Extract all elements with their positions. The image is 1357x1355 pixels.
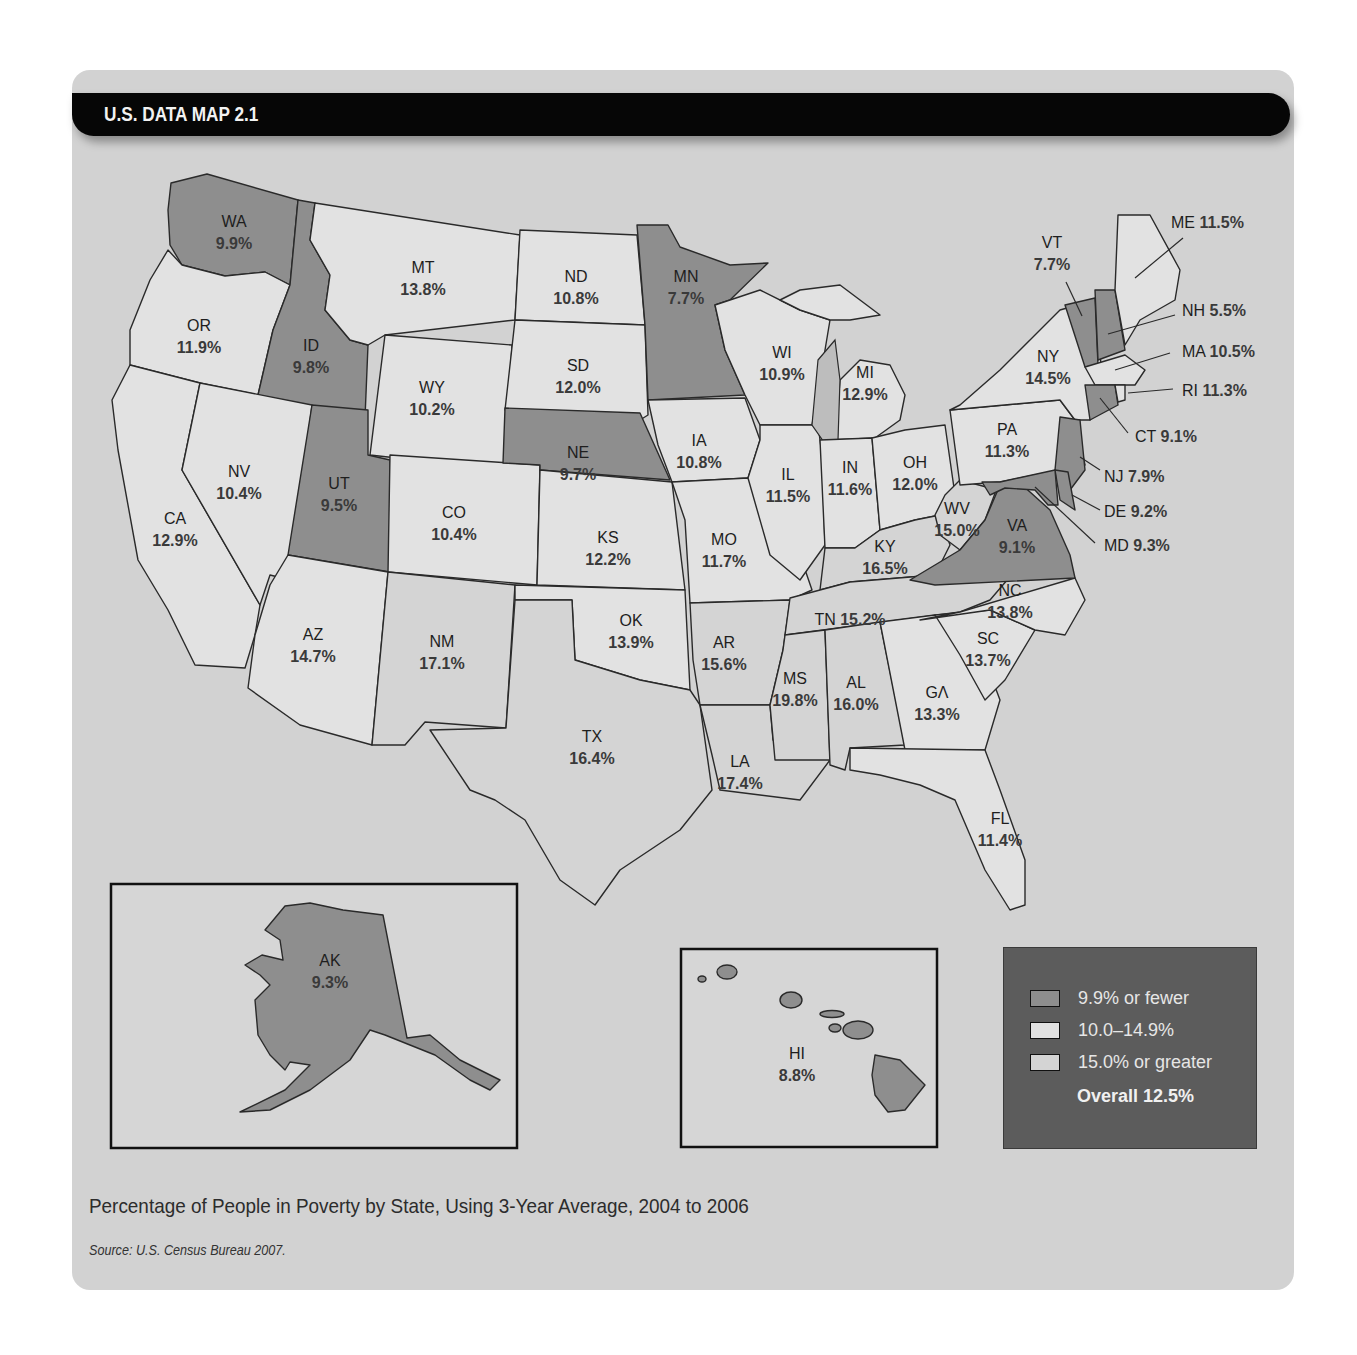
map-source: Source: U.S. Census Bureau 2007.: [89, 1242, 286, 1258]
callout-DE: DE 9.2%: [1104, 503, 1167, 521]
callout-MA: MA 10.5%: [1182, 343, 1255, 361]
label-VA: VA9.1%: [999, 515, 1035, 559]
label-OR: OR11.9%: [177, 315, 221, 359]
label-MI: MI12.9%: [842, 362, 887, 406]
label-WA: WA9.9%: [216, 211, 252, 255]
label-TX: TX16.4%: [569, 726, 614, 770]
legend-overall: Overall 12.5%: [1077, 1086, 1194, 1107]
label-MN: MN7.7%: [668, 266, 704, 310]
label-TN: TN 15.2%: [814, 609, 885, 631]
label-MT: MT13.8%: [400, 257, 445, 301]
label-FL: FL11.4%: [978, 808, 1022, 852]
legend-swatch-low: [1030, 990, 1060, 1007]
callout-MD: MD 9.3%: [1104, 537, 1170, 555]
legend-item-mid: 10.0–14.9%: [1030, 1018, 1174, 1042]
callout-NJ: NJ 7.9%: [1104, 468, 1164, 486]
legend: 9.9% or fewer 10.0–14.9% 15.0% or greate…: [1003, 947, 1257, 1149]
callout-RI: RI 11.3%: [1182, 382, 1247, 400]
label-OK: OK13.9%: [608, 610, 653, 654]
label-NM: NM17.1%: [419, 631, 464, 675]
map-caption: Percentage of People in Poverty by State…: [89, 1194, 749, 1218]
label-AZ: AZ14.7%: [290, 624, 335, 668]
label-VT: VT7.7%: [1034, 232, 1070, 276]
label-OH: OH12.0%: [892, 452, 937, 496]
label-KS: KS12.2%: [585, 527, 630, 571]
label-MS: MS19.8%: [772, 668, 817, 712]
callout-CT: CT 9.1%: [1135, 428, 1197, 446]
label-SC: SC13.7%: [965, 628, 1010, 672]
label-NC: NC13.8%: [987, 580, 1032, 624]
label-AR: AR15.6%: [701, 632, 746, 676]
label-UT: UT9.5%: [321, 473, 357, 517]
label-AK: AK9.3%: [312, 950, 348, 994]
label-IN: IN11.6%: [828, 457, 872, 501]
callout-ME: ME 11.5%: [1171, 214, 1244, 232]
legend-swatch-mid: [1030, 1022, 1060, 1039]
label-KY: KY16.5%: [862, 536, 907, 580]
label-IA: IA10.8%: [676, 430, 721, 474]
label-WI: WI10.9%: [759, 342, 804, 386]
callout-NH: NH 5.5%: [1182, 302, 1246, 320]
label-ND: ND10.8%: [553, 266, 598, 310]
label-HI: HI8.8%: [779, 1043, 815, 1087]
label-LA: LA17.4%: [717, 751, 762, 795]
label-AL: AL16.0%: [833, 672, 878, 716]
label-WV: WV15.0%: [934, 498, 979, 542]
label-PA: PA11.3%: [985, 419, 1029, 463]
label-ID: ID9.8%: [293, 335, 329, 379]
us-map: [0, 0, 1357, 1355]
label-NE: NE9.7%: [560, 442, 596, 486]
label-CA: CA12.9%: [152, 508, 197, 552]
label-IL: IL11.5%: [766, 464, 810, 508]
legend-swatch-high: [1030, 1054, 1060, 1071]
label-GA: GΛ13.3%: [914, 682, 959, 726]
legend-item-low: 9.9% or fewer: [1030, 986, 1189, 1010]
state-ME[interactable]: [1115, 215, 1180, 345]
legend-item-high: 15.0% or greater: [1030, 1050, 1212, 1074]
label-SD: SD12.0%: [555, 355, 600, 399]
label-CO: CO10.4%: [431, 502, 476, 546]
label-NY: NY14.5%: [1025, 346, 1070, 390]
label-MO: MO11.7%: [702, 529, 746, 573]
label-NV: NV10.4%: [216, 461, 261, 505]
label-WY: WY10.2%: [409, 377, 454, 421]
